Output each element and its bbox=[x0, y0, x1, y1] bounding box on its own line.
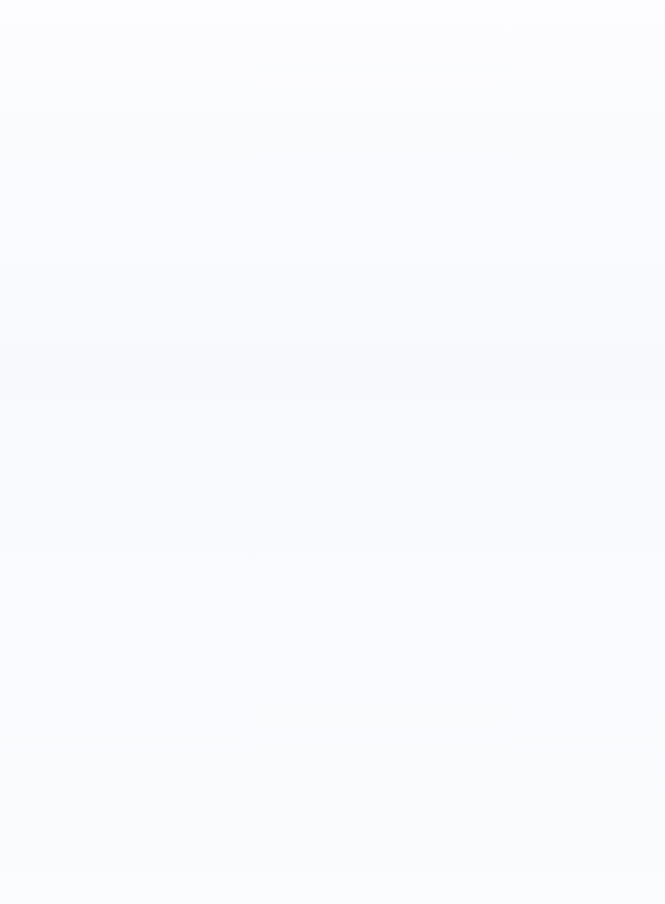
scatter-plot-figure bbox=[0, 0, 665, 904]
figure-container bbox=[0, 0, 665, 904]
